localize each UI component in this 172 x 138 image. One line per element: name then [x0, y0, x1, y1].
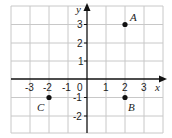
y-axis-arrow-icon: [84, 3, 91, 11]
y-tick-label: -1: [73, 92, 82, 103]
y-tick-label: 1: [78, 56, 84, 67]
x-axis-label: x: [154, 81, 160, 93]
x-tick-label: 3: [141, 82, 147, 93]
point-c-label: C: [37, 101, 45, 113]
x-tick-label: -1: [62, 82, 71, 93]
point-b-label: B: [128, 101, 135, 113]
x-tick-label: -3: [25, 82, 34, 93]
point-c: [46, 95, 51, 100]
x-tick-label: 1: [103, 82, 109, 93]
x-tick-label: 2: [122, 82, 128, 93]
point-a-label: A: [129, 11, 137, 23]
y-tick-label: 2: [77, 38, 83, 49]
y-tick-label: 3: [77, 19, 83, 30]
y-axis-label: y: [75, 3, 81, 15]
point-b: [122, 95, 127, 100]
x-tick-label: -2: [43, 82, 52, 93]
coordinate-plane: x y -3 -2 -1 0 1 2 3 3 2 1 -1 -2 A B C: [0, 0, 172, 138]
point-a: [122, 22, 127, 27]
y-tick-label: -2: [73, 111, 82, 122]
axes: [11, 10, 163, 133]
